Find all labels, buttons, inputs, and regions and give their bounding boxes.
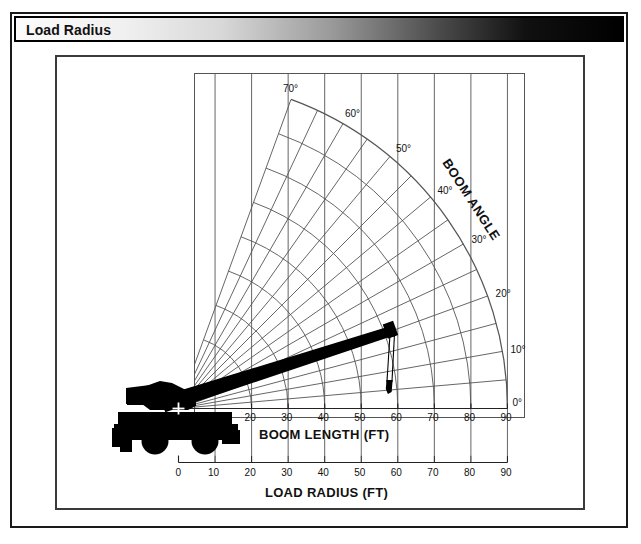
boom-angle-label-20: 20° bbox=[496, 288, 511, 299]
boom-length-tick-label-50: 50 bbox=[354, 412, 365, 423]
load-radius-axis-title: LOAD RADIUS (FT) bbox=[265, 485, 388, 500]
boom-angle-label-50: 50° bbox=[396, 143, 411, 154]
boom-angle-label-60: 60° bbox=[345, 108, 360, 119]
boom-length-tick-label-80: 80 bbox=[464, 412, 475, 423]
boom-length-tick-label-40: 40 bbox=[318, 412, 329, 423]
load-radius-tick-label-20: 20 bbox=[245, 467, 256, 478]
load-radius-tick-label-60: 60 bbox=[391, 467, 402, 478]
boom-angle-label-30: 30° bbox=[471, 234, 486, 245]
boom-length-axis-title: BOOM LENGTH (FT) bbox=[259, 427, 389, 442]
boom-length-tick-label-70: 70 bbox=[427, 412, 438, 423]
boom-length-tick-label-90: 90 bbox=[500, 412, 511, 423]
boom-length-tick-label-30: 30 bbox=[281, 412, 292, 423]
boom-angle-label-10: 10° bbox=[510, 344, 525, 355]
page-title: Load Radius bbox=[26, 20, 111, 40]
boom-angle-label-40: 40° bbox=[437, 185, 452, 196]
load-radius-tick-label-50: 50 bbox=[354, 467, 365, 478]
window-titlebar: Load Radius bbox=[14, 16, 624, 42]
load-radius-tick-label-30: 30 bbox=[281, 467, 292, 478]
plot-area-border bbox=[194, 73, 525, 418]
boom-angle-label-70: 70° bbox=[283, 83, 298, 94]
load-radius-tick-label-70: 70 bbox=[427, 467, 438, 478]
load-radius-tick-label-40: 40 bbox=[318, 467, 329, 478]
boom-angle-label-0: 0° bbox=[512, 397, 522, 408]
load-radius-tick-label-0: 0 bbox=[176, 467, 182, 478]
boom-length-tick-label-60: 60 bbox=[391, 412, 402, 423]
boom-length-tick-label-20: 20 bbox=[245, 412, 256, 423]
load-radius-tick-label-90: 90 bbox=[500, 467, 511, 478]
load-radius-tick-label-10: 10 bbox=[208, 467, 219, 478]
load-radius-tick-label-80: 80 bbox=[464, 467, 475, 478]
load-radius-chart-page: Load Radius 2030405060708090010203040506… bbox=[0, 0, 641, 544]
